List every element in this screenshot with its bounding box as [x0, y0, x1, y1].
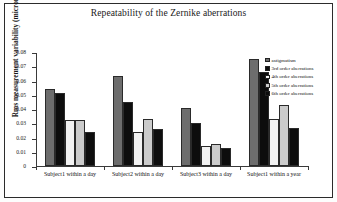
bar	[211, 144, 221, 166]
bar-set	[172, 53, 240, 166]
bar-group	[36, 53, 104, 166]
bar	[249, 59, 259, 166]
x-axis-tick	[36, 166, 37, 170]
bar	[143, 119, 153, 166]
y-axis-title: Rms measurement variability (microns)	[11, 0, 20, 120]
bar	[201, 146, 211, 166]
y-axis-tick-label: 0.04	[16, 106, 26, 112]
chart-legend: astigmatism3rd order aberrations4th orde…	[265, 56, 335, 98]
figure-container: Repeatability of the Zernike aberrations…	[0, 0, 337, 202]
bar	[191, 123, 201, 166]
bar-group	[104, 53, 172, 166]
y-axis-tick-label: 0.07	[16, 63, 26, 69]
x-axis-tick	[104, 166, 105, 170]
legend-label: 4th order aberrations	[272, 74, 314, 79]
bar-set	[104, 53, 172, 166]
bar	[55, 93, 65, 166]
x-axis-tick	[240, 166, 241, 170]
bar-set	[36, 53, 104, 166]
legend-item: astigmatism	[265, 56, 335, 64]
y-axis-tick-label: 0.01	[16, 149, 26, 155]
y-axis-tick-label: 0.08	[16, 49, 26, 55]
legend-label: 6th order aberrations	[272, 91, 314, 96]
legend-swatch-icon	[265, 75, 270, 80]
legend-swatch-icon	[265, 83, 270, 88]
chart-title: Repeatability of the Zernike aberrations	[0, 8, 337, 18]
category-label: Subject1 within a day	[36, 171, 104, 177]
legend-swatch-icon	[265, 58, 270, 63]
legend-label: 5th order aberrations	[272, 83, 314, 88]
legend-label: astigmatism	[272, 58, 296, 63]
category-label: Subject2 within a day	[104, 171, 172, 177]
bar	[269, 119, 279, 166]
category-label: Subject3 within a day	[172, 171, 240, 177]
bar	[75, 120, 85, 166]
bar	[133, 132, 143, 166]
bar-group	[172, 53, 240, 166]
bar	[289, 128, 299, 166]
y-axis-tick-label: 0	[23, 163, 26, 169]
legend-swatch-icon	[265, 66, 270, 71]
legend-item: 5th order aberrations	[265, 81, 335, 89]
y-axis-tick-label: 0.06	[16, 78, 26, 84]
x-axis-tick	[172, 166, 173, 170]
category-label: Subject1 within a year	[240, 171, 308, 177]
legend-item: 3rd order aberrations	[265, 64, 335, 72]
y-axis-tick-label: 0.02	[16, 135, 26, 141]
bar	[181, 108, 191, 166]
bar	[221, 148, 231, 166]
bar	[279, 105, 289, 166]
bar	[45, 89, 55, 166]
legend-item: 6th order aberrations	[265, 90, 335, 98]
y-axis-tick-label: 0.03	[16, 120, 26, 126]
legend-swatch-icon	[265, 91, 270, 96]
legend-item: 4th order aberrations	[265, 73, 335, 81]
bar	[113, 76, 123, 166]
y-axis-tick-label: 0.05	[16, 92, 26, 98]
bar	[123, 102, 133, 166]
bar	[85, 132, 95, 166]
legend-label: 3rd order aberrations	[272, 66, 314, 71]
x-axis-tick	[308, 166, 309, 170]
bar	[65, 120, 75, 166]
bar	[153, 129, 163, 166]
